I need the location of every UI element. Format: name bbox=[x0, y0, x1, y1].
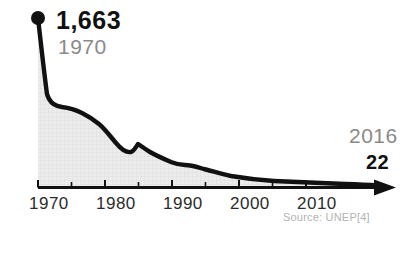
x-tick-label-1970: 1970 bbox=[29, 195, 69, 212]
peak-value-label: 1,663 bbox=[56, 8, 121, 33]
peak-marker-dot bbox=[31, 11, 45, 25]
peak-year-label: 1970 bbox=[58, 36, 107, 57]
end-value-label: 22 bbox=[366, 152, 389, 172]
end-year-label: 2016 bbox=[349, 125, 398, 146]
chart-container: 1,663 1970 2016 22 1970 1980 1990 2000 2… bbox=[0, 0, 420, 255]
x-tick-label-2010: 2010 bbox=[297, 195, 337, 212]
x-tick-label-1990: 1990 bbox=[163, 195, 203, 212]
x-tick-label-1980: 1980 bbox=[96, 195, 136, 212]
source-attribution: Source: UNEP[4] bbox=[283, 212, 370, 223]
x-tick-label-2000: 2000 bbox=[230, 195, 270, 212]
